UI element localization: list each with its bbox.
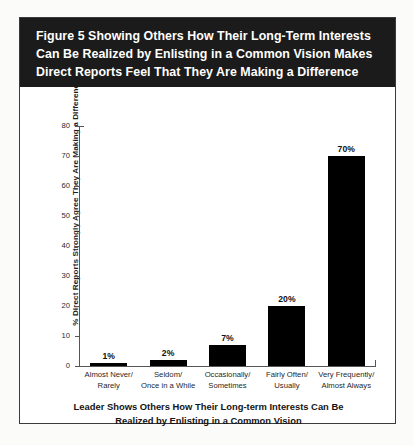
bar [328, 156, 365, 366]
x-axis-category-line-2: Once in a While [134, 380, 201, 391]
bars-layer: 1%2%7%20%70% [79, 126, 376, 366]
bar-value-label: 20% [268, 294, 305, 304]
bar [209, 345, 246, 366]
bar-value-label: 7% [209, 333, 246, 343]
bar [90, 363, 127, 366]
y-axis-tick-label: 80 [62, 121, 70, 131]
figure-frame: Figure 5 Showing Others How Their Long-T… [19, 17, 396, 424]
y-axis-tick-label: 40 [62, 241, 70, 251]
x-axis-title-line-1: Leader Shows Others How Their Long-term … [30, 400, 387, 414]
x-axis-category-line-2: Almost Always [313, 380, 380, 391]
y-axis-tick-label: 20 [62, 301, 70, 311]
x-axis-category-label: Almost Never/Rarely [75, 369, 142, 392]
y-axis-tick-label: 60 [62, 181, 70, 191]
y-axis-tick-label: 10 [62, 331, 70, 341]
x-axis-category-line-2: Usually [253, 380, 320, 391]
bar [268, 306, 305, 366]
y-axis-title-line-2: a Difference [71, 79, 80, 127]
bar-group: 20% [268, 126, 305, 366]
bar-value-label: 2% [150, 348, 187, 358]
figure-root: Figure 5 Showing Others How Their Long-T… [0, 0, 413, 445]
x-axis-category-label: Very Frequently/Almost Always [313, 369, 380, 392]
figure-title-line-2: Can Be Realized by Enlisting in a Common… [36, 45, 383, 63]
y-axis-tick: 30 [20, 271, 79, 281]
y-axis-tick: 10 [20, 331, 79, 341]
y-axis-tick: 80 [20, 121, 79, 131]
y-axis-tick-label: 30 [62, 271, 70, 281]
y-axis-tick: 70 [20, 151, 79, 161]
x-axis-category-line-1: Almost Never/ [75, 369, 142, 380]
y-axis-tick: 0 [20, 361, 79, 371]
y-axis-tick: 60 [20, 181, 79, 191]
x-axis-category-line-1: Very Frequently/ [313, 369, 380, 380]
x-axis-category-label: Occasionally/Sometimes [194, 369, 261, 392]
x-axis-category-line-2: Sometimes [194, 380, 261, 391]
y-axis-tick: 50 [20, 211, 79, 221]
y-axis-tick: 20 [20, 301, 79, 311]
bar-group: 1% [90, 126, 127, 366]
x-axis-title: Leader Shows Others How Their Long-term … [30, 400, 387, 429]
x-axis-category-line-1: Seldom/ [134, 369, 201, 380]
x-axis-line [79, 366, 376, 367]
plot-area: % Direct Reports Strongly Agree They Are… [20, 87, 397, 425]
bar-value-label: 70% [328, 144, 365, 154]
figure-title-line-1: Figure 5 Showing Others How Their Long-T… [36, 27, 383, 45]
figure-title-line-3: Direct Reports Feel That They Are Making… [36, 63, 383, 81]
y-axis-tick: 40 [20, 241, 79, 251]
y-axis-tick-label: 70 [62, 151, 70, 161]
bar-group: 2% [150, 126, 187, 366]
x-axis-category-labels: Almost Never/RarelySeldom/Once in a Whil… [79, 369, 376, 399]
x-axis-category-line-2: Rarely [75, 380, 142, 391]
bar [150, 360, 187, 366]
x-axis-category-line-1: Fairly Often/ [253, 369, 320, 380]
x-axis-title-line-2: Realized by Enlisting in a Common Vision [30, 414, 387, 428]
bar-group: 70% [328, 126, 365, 366]
bar-group: 7% [209, 126, 246, 366]
y-axis-tick-label: 0 [66, 361, 70, 371]
x-axis-category-label: Seldom/Once in a While [134, 369, 201, 392]
bar-value-label: 1% [90, 351, 127, 361]
x-axis-category-line-1: Occasionally/ [194, 369, 261, 380]
x-axis-category-label: Fairly Often/Usually [253, 369, 320, 392]
y-axis-tick-label: 50 [62, 211, 70, 221]
